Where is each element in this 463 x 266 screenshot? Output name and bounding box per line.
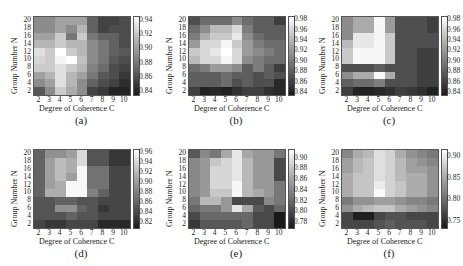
heatmap-cell (200, 181, 211, 189)
heatmap-cell (374, 220, 385, 228)
y-axis-label: Group Number N (318, 38, 327, 94)
heatmap-cell (253, 197, 264, 205)
heatmap-cell (189, 220, 200, 228)
heatmap-cell (274, 189, 285, 197)
heatmap-cell (98, 33, 109, 41)
heatmap-cell (87, 205, 98, 213)
heatmap-cell (264, 48, 275, 56)
heatmap-cell (374, 48, 385, 56)
heatmap-cell (406, 197, 417, 205)
heatmap-cell (45, 197, 56, 205)
heatmap-cell (77, 17, 88, 25)
heatmap-cell (406, 166, 417, 174)
heatmap-cell (189, 197, 200, 205)
heatmap-cell (109, 79, 120, 87)
heatmap-cell (66, 150, 77, 158)
heatmap-cell (417, 17, 428, 25)
heatmap-cell (34, 79, 45, 87)
colorbar-tick-label: 0.98 (447, 15, 460, 22)
heatmap-cell (264, 33, 275, 41)
heatmap-cell (242, 150, 253, 158)
heatmap-cell (264, 205, 275, 213)
heatmap-cell (427, 72, 438, 80)
heatmap-cell (374, 33, 385, 41)
heatmap-cell (395, 79, 406, 87)
x-tick-label: 9 (263, 228, 273, 237)
heatmap-cell (395, 166, 406, 174)
heatmap-cell (200, 173, 211, 181)
heatmap-cell (210, 87, 221, 95)
heatmap-cell (232, 48, 243, 56)
heatmap-cell (119, 33, 130, 41)
heatmap-cell (200, 48, 211, 56)
heatmap-cell (66, 181, 77, 189)
heatmap-cell (119, 205, 130, 213)
heatmap-cell (374, 40, 385, 48)
heatmap-cell (395, 220, 406, 228)
heatmap-cell (232, 56, 243, 64)
heatmap-cell (385, 48, 396, 56)
heatmap-cell (385, 25, 396, 33)
y-tick-label: 16 (329, 32, 339, 39)
heatmap-cell (417, 87, 428, 95)
heatmap-cell (264, 72, 275, 80)
y-tick-label: 2 (21, 220, 31, 227)
heatmap-cell (274, 220, 285, 228)
heatmap-cell (221, 197, 232, 205)
heatmap-cell (253, 87, 264, 95)
y-tick-label: 6 (329, 204, 339, 211)
heatmap-cell (353, 48, 364, 56)
colorbar-tick-label: 0.84 (139, 87, 152, 94)
heatmap-cell (417, 64, 428, 72)
y-axis-label: Group Number N (318, 171, 327, 227)
x-tick-label: 5 (373, 95, 383, 104)
heatmap-cell (374, 173, 385, 181)
heatmap-cell (342, 212, 353, 220)
heatmap-cell (253, 72, 264, 80)
heatmap-cell (45, 33, 56, 41)
heatmap-cell (45, 158, 56, 166)
heatmap-cell (200, 166, 211, 174)
heatmap-cell (45, 40, 56, 48)
heatmap-cell (55, 212, 66, 220)
heatmap-cell (395, 87, 406, 95)
heatmap-cell (353, 150, 364, 158)
heatmap-cell (363, 33, 374, 41)
heatmap-cell (427, 33, 438, 41)
heatmap-cell (87, 25, 98, 33)
heatmap-cell (109, 33, 120, 41)
heatmap-cell (385, 189, 396, 197)
heatmap-cell (264, 173, 275, 181)
colorbar-tick-label: 0.90 (294, 57, 307, 64)
heatmap-cell (87, 40, 98, 48)
y-tick-label: 16 (329, 165, 339, 172)
heatmap-cell (353, 189, 364, 197)
heatmap-cell (242, 181, 253, 189)
heatmap-cell (253, 79, 264, 87)
heatmap-cell (274, 158, 285, 166)
x-tick-label: 6 (76, 95, 86, 104)
heatmap-cell (55, 166, 66, 174)
heatmap-cell (189, 181, 200, 189)
colorbar-tick-label: 0.80 (294, 207, 307, 214)
heatmap-cell (253, 181, 264, 189)
heatmap-cell (34, 25, 45, 33)
y-tick-label: 14 (176, 40, 186, 47)
heatmap-cell (210, 150, 221, 158)
heatmap-cell (34, 220, 45, 228)
x-tick-label: 10 (427, 95, 437, 104)
heatmap-cell (66, 197, 77, 205)
heatmap-cell (342, 48, 353, 56)
heatmap-cell (87, 56, 98, 64)
heatmap-cell (189, 189, 200, 197)
heatmap-cell (417, 25, 428, 33)
y-tick-label: 14 (329, 173, 339, 180)
x-tick-label: 2 (33, 95, 43, 104)
heatmap-cell (119, 25, 130, 33)
heatmap-cell (66, 64, 77, 72)
colorbar-tick-label: 0.84 (294, 186, 307, 193)
heatmap-cell (109, 197, 120, 205)
y-tick-label: 4 (176, 212, 186, 219)
heatmap-cell (34, 17, 45, 25)
heatmap-cell (385, 72, 396, 80)
